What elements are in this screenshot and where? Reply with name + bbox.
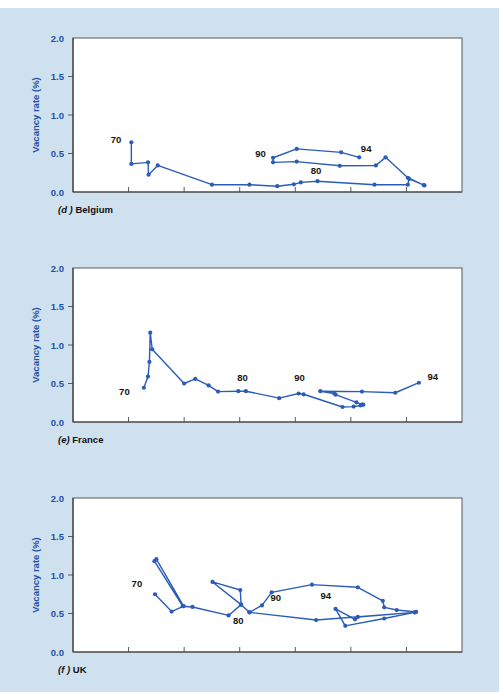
x-tick-label: 2 — [126, 196, 131, 198]
chart-panel-uk: 024681012140.00.51.01.52.0Unemployment r… — [0, 478, 499, 688]
data-point — [182, 381, 186, 385]
data-point — [343, 624, 347, 628]
data-point — [244, 389, 248, 393]
data-point — [315, 179, 319, 183]
x-tick-label: 8 — [293, 196, 298, 198]
x-tick-label: 10 — [346, 426, 357, 428]
x-tick-label: 2 — [126, 426, 131, 428]
data-point — [247, 183, 251, 187]
data-point — [216, 389, 220, 393]
year-annotation: 80 — [237, 372, 248, 383]
x-tick-label: 12 — [401, 426, 412, 428]
data-point — [146, 160, 150, 164]
x-tick-label: 4 — [181, 196, 187, 198]
y-axis-title: Vacancy rate (%) — [30, 537, 41, 613]
x-tick-label: 0 — [70, 426, 75, 428]
data-point — [395, 608, 399, 612]
data-point — [318, 389, 322, 393]
data-point — [236, 389, 240, 393]
data-point — [332, 391, 336, 395]
caption-prefix-france: (e) — [58, 434, 70, 445]
caption-france: (e) France — [58, 434, 103, 445]
data-point — [238, 588, 242, 592]
chart-svg-uk: 024681012140.00.51.01.52.0Unemployment r… — [0, 478, 499, 658]
y-tick-label: 1.5 — [51, 71, 65, 82]
data-point — [247, 610, 251, 614]
data-point — [292, 182, 296, 186]
y-tick-label: 0.0 — [51, 647, 64, 658]
data-point — [354, 400, 358, 404]
x-tick-label: 8 — [293, 656, 298, 658]
x-tick-label: 4 — [181, 426, 187, 428]
plot-area-belgium — [73, 38, 462, 192]
y-tick-label: 1.0 — [51, 110, 64, 121]
data-point — [142, 386, 146, 390]
data-point — [271, 156, 275, 160]
y-tick-label: 1.0 — [51, 340, 64, 351]
year-annotation: 90 — [255, 148, 266, 159]
x-tick-label: 14 — [457, 656, 468, 658]
data-point — [148, 331, 152, 335]
data-point — [260, 603, 264, 607]
data-point — [150, 347, 154, 351]
data-point — [372, 183, 376, 187]
data-point — [357, 155, 361, 159]
data-point — [297, 391, 301, 395]
data-point — [381, 599, 385, 603]
data-point — [356, 585, 360, 589]
plot-area-france — [73, 268, 462, 422]
plot-area-uk — [73, 498, 462, 652]
data-point — [413, 610, 417, 614]
data-point — [129, 162, 133, 166]
x-tick-label: 6 — [237, 656, 242, 658]
year-annotation: 94 — [428, 371, 439, 382]
data-point — [152, 559, 156, 563]
x-tick-label: 2 — [126, 656, 131, 658]
data-point — [210, 183, 214, 187]
x-tick-label: 8 — [293, 426, 298, 428]
year-annotation: 90 — [294, 372, 305, 383]
caption-label-france: France — [72, 434, 103, 445]
data-point — [302, 392, 306, 396]
data-point — [353, 617, 357, 621]
data-point — [352, 405, 356, 409]
data-point — [210, 580, 214, 584]
data-point — [170, 609, 174, 613]
x-tick-label: 14 — [457, 426, 468, 428]
x-tick-label: 14 — [457, 196, 468, 198]
caption-belgium: (d ) Belgium — [58, 204, 113, 215]
data-point — [422, 183, 426, 187]
data-point — [310, 583, 314, 587]
year-annotation: 94 — [321, 590, 332, 601]
data-point — [277, 396, 281, 400]
data-point — [299, 180, 303, 184]
data-point — [382, 605, 386, 609]
year-annotation: 94 — [361, 143, 372, 154]
data-point — [360, 403, 364, 407]
x-tick-label: 12 — [401, 196, 412, 198]
data-point — [333, 607, 337, 611]
data-point — [383, 155, 387, 159]
data-point — [295, 147, 299, 151]
data-point — [271, 160, 275, 164]
x-tick-label: 0 — [70, 196, 75, 198]
y-tick-label: 0.5 — [51, 608, 65, 619]
y-tick-label: 2.0 — [51, 33, 64, 44]
data-point — [295, 159, 299, 163]
year-annotation: 70 — [111, 134, 122, 145]
data-point — [239, 603, 243, 607]
page-root: 024681012140.00.51.01.52.0Unemployment r… — [0, 0, 499, 700]
data-point — [147, 360, 151, 364]
data-point — [227, 613, 231, 617]
x-tick-label: 10 — [346, 196, 357, 198]
data-point — [382, 616, 386, 620]
data-point — [406, 176, 410, 180]
data-point — [181, 604, 185, 608]
data-point — [275, 184, 279, 188]
y-tick-label: 0.0 — [51, 417, 64, 428]
y-axis-title: Vacancy rate (%) — [30, 77, 41, 153]
data-point — [146, 173, 150, 177]
data-point — [393, 391, 397, 395]
x-tick-label: 10 — [346, 656, 357, 658]
year-annotation: 80 — [233, 615, 244, 626]
